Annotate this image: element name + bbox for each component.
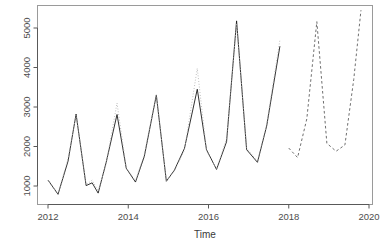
x-axis-tick-label: 2018: [278, 211, 299, 222]
y-axis-tick-label: 3000: [21, 96, 32, 117]
y-axis-tick-label: 1000: [21, 175, 32, 196]
y-axis-tick-label: 2000: [21, 136, 32, 157]
x-axis-title: Time: [194, 229, 216, 240]
time-series-plot: 10002000300040005000 2012201420162018202…: [0, 0, 388, 248]
chart-container: 10002000300040005000 2012201420162018202…: [0, 0, 388, 248]
x-axis-tick-label: 2012: [37, 211, 58, 222]
y-axis-tick-label: 5000: [21, 17, 32, 38]
x-axis-tick-label: 2016: [198, 211, 219, 222]
y-axis-tick-label: 4000: [21, 57, 32, 78]
x-axis-tick-label: 2020: [358, 211, 379, 222]
x-axis-tick-label: 2014: [118, 211, 139, 222]
